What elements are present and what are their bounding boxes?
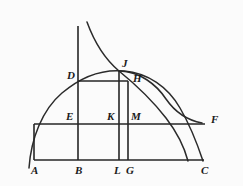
point-label-e: E	[65, 110, 73, 122]
point-label-k: K	[106, 110, 115, 122]
curves-group	[29, 22, 203, 168]
point-label-l: L	[113, 164, 121, 176]
point-label-g: G	[126, 164, 134, 176]
point-label-a: A	[30, 164, 38, 176]
geometry-diagram-svg: ABLGCEKMFDJH	[0, 0, 243, 186]
point-label-h: H	[132, 72, 142, 84]
point-label-d: D	[66, 69, 75, 81]
geometry-figure: ABLGCEKMFDJH	[0, 0, 243, 186]
point-label-b: B	[74, 164, 82, 176]
ellipse-arc-major	[29, 71, 203, 168]
hyperbola-branch	[87, 22, 188, 161]
point-label-f: F	[210, 113, 219, 125]
point-label-m: M	[130, 110, 142, 122]
point-label-c: C	[201, 164, 209, 176]
point-label-j: J	[121, 57, 128, 69]
